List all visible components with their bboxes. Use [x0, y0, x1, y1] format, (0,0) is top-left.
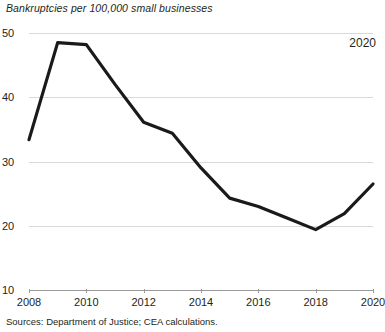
x-axis-tick-label-2018: 2018 [303, 296, 327, 308]
x-axis-tick-label-2012: 2012 [131, 296, 155, 308]
y-axis-tick-label-20: 20 [2, 220, 24, 232]
chart-figure: Bankruptcies per 100,000 small businesse… [0, 0, 385, 332]
series-line-bankruptcies [29, 33, 373, 290]
y-axis-tick-label-50: 50 [2, 27, 24, 39]
x-axis-tick-label-2010: 2010 [74, 296, 98, 308]
chart-title: Bankruptcies per 100,000 small businesse… [6, 2, 213, 14]
y-axis-tick-label-10: 10 [2, 284, 24, 296]
y-axis-tick-label-30: 30 [2, 156, 24, 168]
x-axis-tick-label-2020: 2020 [361, 296, 385, 308]
plot-area [29, 33, 373, 290]
x-axis-tick-label-2016: 2016 [246, 296, 270, 308]
source-note: Sources: Department of Justice; CEA calc… [6, 316, 218, 327]
data-line-path [29, 43, 373, 230]
x-axis-tickmark-2020 [373, 289, 374, 293]
x-axis-tick-label-2014: 2014 [189, 296, 213, 308]
x-axis-tick-label-2008: 2008 [17, 296, 41, 308]
y-axis-tick-label-40: 40 [2, 91, 24, 103]
